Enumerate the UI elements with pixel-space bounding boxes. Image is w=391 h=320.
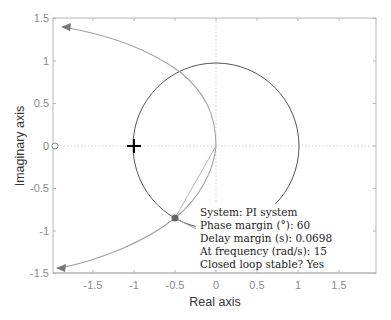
y-tick-label: -1.5 [30,267,49,279]
y-tick-label: 1.5 [34,12,49,24]
annotation-line-stable: Closed loop stable? Yes [200,258,324,270]
x-tick-label: 1.5 [331,279,346,291]
x-axis-label: Real axis [189,295,240,309]
phase-margin-marker[interactable] [172,215,179,222]
y-tick-label: -1 [39,225,49,237]
y-tick-label: 0 [43,140,49,152]
x-tick-label: 0.5 [249,279,264,291]
y-tick-labels: -1.5 -1 -0.5 0 0.5 1 1.5 [30,12,49,279]
x-tick-label: -1.5 [84,279,103,291]
x-tick-label: -0.5 [166,279,185,291]
open-loop-pole-marker [52,143,58,149]
x-tick-label: 0 [213,279,219,291]
annotation-line-frequency: At frequency (rad/s): 15 [199,245,327,257]
y-axis-label: Imaginary axis [13,106,27,187]
x-tick-labels: -1.5 -1 -0.5 0 0.5 1 1.5 [84,279,347,291]
annotation-line-system: System: PI system [200,206,297,218]
x-tick-label: 1 [295,279,301,291]
x-tick-label: -1 [129,279,139,291]
y-tick-label: 0.5 [34,97,49,109]
annotation-line-delay-margin: Delay margin (s): 0.0698 [200,232,332,244]
y-tick-label: 1 [43,55,49,67]
annotation-line-phase-margin: Phase margin (°): 60 [200,219,310,231]
y-tick-label: -0.5 [30,182,49,194]
nyquist-plot: -1.5 -1 -0.5 0 0.5 1 1.5 -1.5 -1 -0.5 0 … [0,0,391,320]
